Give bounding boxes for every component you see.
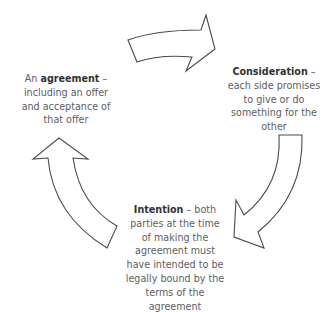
node-intention-line-2: parties at the time [116, 217, 234, 231]
term-consideration: Consideration [232, 66, 307, 77]
node-consideration-line-1: Consideration – [220, 65, 328, 79]
node-intention-line-3: of making the [116, 231, 234, 245]
node-intention-line-5: have intended to be [116, 258, 234, 272]
node-agreement: An agreement – including an offer and ac… [14, 72, 118, 127]
node-agreement-line-3: and acceptance of [14, 100, 118, 114]
node-agreement-line-2: including an offer [14, 86, 118, 100]
dash: – both [183, 204, 216, 215]
text-an: An [25, 73, 38, 84]
arrow-intention-to-agreement [33, 138, 117, 248]
node-agreement-line-1: An agreement – [14, 72, 118, 86]
node-consideration-line-3: to give or do [220, 93, 328, 107]
node-intention-line-6: legally bound by the [116, 272, 234, 286]
arrow-consideration-to-intention [234, 135, 302, 248]
node-agreement-line-4: that offer [14, 113, 118, 127]
node-consideration-line-5: other [220, 120, 328, 134]
node-consideration-line-2: each side promises [220, 79, 328, 93]
dash: – [308, 66, 316, 77]
node-intention-line-4: agreement must [116, 244, 234, 258]
node-consideration: Consideration – each side promises to gi… [220, 65, 328, 134]
node-intention-line-7: terms of the [116, 286, 234, 300]
node-intention-line-1: Intention – both [116, 203, 234, 217]
term-intention: Intention [134, 204, 184, 215]
node-intention-line-8: agreement [116, 300, 234, 312]
node-consideration-line-4: something for the [220, 106, 328, 120]
node-intention: Intention – both parties at the time of … [116, 203, 234, 312]
dash: – [99, 73, 107, 84]
arrow-agreement-to-consideration [128, 15, 215, 71]
term-agreement: agreement [40, 73, 99, 84]
